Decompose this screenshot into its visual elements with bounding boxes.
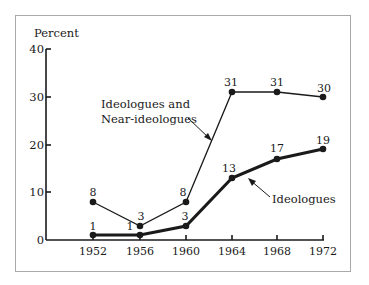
y-tick-30: 30 [29, 90, 44, 104]
data-label: 8 [180, 186, 187, 199]
data-point [229, 175, 236, 182]
data-point [274, 89, 281, 96]
data-point [137, 232, 144, 239]
data-point [274, 156, 281, 163]
data-label: 30 [317, 82, 331, 95]
data-point [137, 223, 144, 230]
data-label: 13 [222, 162, 236, 175]
data-label: 1 [127, 220, 134, 233]
data-point [183, 223, 190, 230]
y-tick-10: 10 [29, 185, 44, 199]
data-label: 31 [224, 76, 238, 89]
data-label: 19 [316, 134, 330, 147]
data-point [183, 199, 190, 206]
x-tick-1968: 1968 [263, 245, 291, 258]
line-chart: Percent 40 30 20 10 0 1952 1956 1960 196… [0, 0, 369, 285]
data-point [90, 199, 97, 206]
data-label: 17 [270, 142, 284, 155]
series-label-near-line2: Near-ideologues [101, 112, 197, 126]
y-axis-title: Percent [34, 26, 79, 40]
x-axis [46, 235, 324, 240]
data-point [229, 89, 236, 96]
x-tick-1964: 1964 [218, 245, 246, 258]
series-label-ideologues: Ideologues [272, 192, 336, 206]
arrow-icon [248, 178, 270, 197]
x-tick-1956: 1956 [126, 245, 154, 258]
data-label: 3 [182, 210, 189, 223]
y-tick-40: 40 [29, 42, 44, 56]
x-tick-1972: 1972 [309, 245, 337, 258]
y-tick-20: 20 [29, 138, 44, 152]
y-tick-0: 0 [37, 233, 44, 247]
x-tick-1952: 1952 [79, 245, 107, 258]
x-tick-1960: 1960 [172, 245, 200, 258]
data-label: 8 [90, 186, 97, 199]
series-label-near-line1: Ideologues and [101, 97, 191, 111]
data-label: 3 [138, 210, 145, 223]
y-axis [46, 49, 51, 240]
data-label: 1 [90, 220, 97, 233]
arrow-icon [188, 118, 212, 141]
data-label: 31 [270, 76, 284, 89]
